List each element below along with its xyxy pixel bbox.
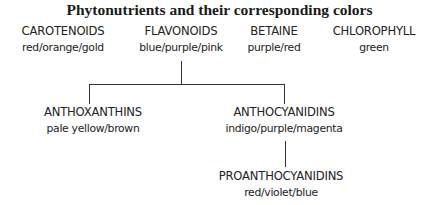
node-chlorophyll: CHLOROPHYLL green	[294, 24, 439, 55]
node-colors: indigo/purple/magenta	[204, 121, 364, 136]
node-name: CHLOROPHYLL	[294, 24, 439, 39]
node-colors: pale yellow/brown	[13, 121, 173, 136]
connector-to-proanthocyanidins	[285, 141, 286, 167]
node-anthoxanthins: ANTHOXANTHINS pale yellow/brown	[13, 105, 173, 136]
node-proanthocyanidins: PROANTHOCYANIDINS red/violet/blue	[201, 169, 361, 200]
node-anthocyanidins: ANTHOCYANIDINS indigo/purple/magenta	[204, 105, 364, 136]
connector-to-anthocyanidins	[284, 84, 285, 104]
node-colors: green	[294, 40, 439, 55]
diagram-title: Phytonutrients and their corresponding c…	[0, 1, 439, 19]
node-name: ANTHOXANTHINS	[13, 105, 173, 120]
connector-flavonoids-down	[181, 61, 182, 84]
node-name: PROANTHOCYANIDINS	[201, 169, 361, 184]
node-name: ANTHOCYANIDINS	[204, 105, 364, 120]
connector-horizontal	[89, 84, 285, 85]
node-colors: red/violet/blue	[201, 185, 361, 200]
connector-to-anthoxanthins	[89, 84, 90, 104]
